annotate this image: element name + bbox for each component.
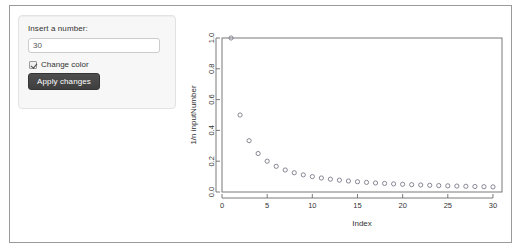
svg-text:20: 20 [398, 201, 406, 210]
svg-text:0.4: 0.4 [207, 125, 216, 135]
svg-text:0: 0 [220, 201, 224, 210]
number-input-label: Insert a number: [28, 24, 88, 34]
svg-text:0.2: 0.2 [207, 156, 216, 166]
svg-text:5: 5 [265, 201, 269, 210]
svg-text:0.8: 0.8 [207, 64, 216, 74]
svg-text:Index: Index [352, 219, 372, 228]
svg-text:0.6: 0.6 [207, 94, 216, 104]
sidebar-panel: Insert a number: Change color Apply chan… [18, 15, 176, 109]
svg-text:15: 15 [353, 201, 361, 210]
change-color-checkbox[interactable] [29, 61, 37, 69]
svg-text:10: 10 [308, 201, 316, 210]
svg-text:25: 25 [444, 201, 452, 210]
svg-text:30: 30 [489, 201, 497, 210]
scatter-plot: 0.00.20.40.60.81.0051015202530Index1/n i… [180, 20, 505, 239]
change-color-checkbox-label: Change color [41, 60, 89, 70]
number-input[interactable] [28, 38, 160, 53]
svg-text:0.0: 0.0 [207, 187, 216, 197]
svg-text:1/n inputNumber: 1/n inputNumber [189, 85, 198, 144]
svg-text:1.0: 1.0 [207, 33, 216, 43]
plot-area: 0.00.20.40.60.81.0051015202530Index1/n i… [180, 20, 505, 239]
apply-changes-button[interactable]: Apply changes [28, 73, 100, 90]
change-color-checkbox-row[interactable]: Change color [29, 60, 89, 70]
app-frame: Insert a number: Change color Apply chan… [9, 5, 512, 243]
